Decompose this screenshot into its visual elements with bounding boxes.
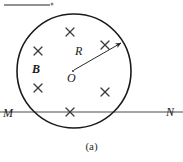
figure-caption: (a) (0, 140, 183, 152)
field-cross-4 (34, 84, 42, 92)
top-rule-end-mark (51, 3, 54, 6)
magnetic-field-label: B (32, 63, 40, 75)
point-m-label: M (3, 107, 13, 119)
field-cross-5 (101, 88, 109, 96)
radius-label: R (75, 45, 82, 57)
field-cross-3 (101, 41, 109, 49)
physics-figure: R O B M N (a) (0, 0, 183, 162)
field-cross-2 (34, 47, 42, 55)
figure-canvas (0, 0, 183, 162)
center-label: O (67, 72, 76, 84)
field-cross-1 (66, 28, 74, 36)
point-n-label: N (166, 106, 174, 118)
